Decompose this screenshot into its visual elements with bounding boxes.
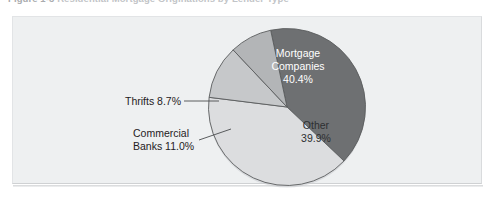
- chart-panel: [12, 16, 482, 184]
- figure-caption-label: Figure 1-3: [8, 0, 54, 4]
- figure-root: Figure 1-3 Residential Mortgage Originat…: [0, 0, 496, 207]
- figure-caption: Figure 1-3 Residential Mortgage Originat…: [8, 0, 478, 5]
- panel-bottom-shadow: [13, 185, 483, 187]
- figure-caption-text: Residential Mortgage Originations by Len…: [57, 0, 289, 4]
